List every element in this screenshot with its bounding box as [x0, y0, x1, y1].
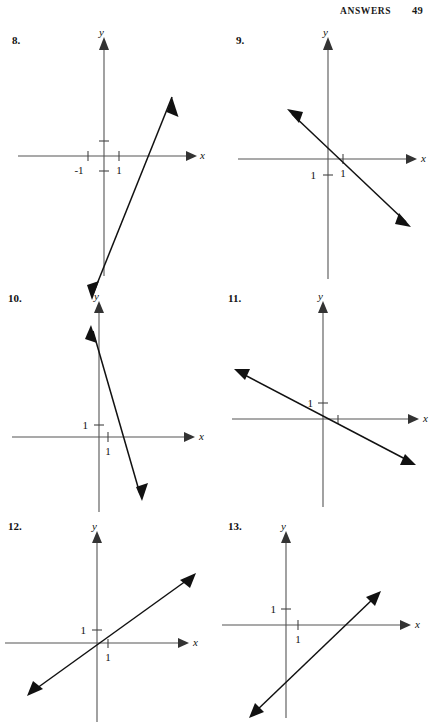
figure-13: 13. x y 1 1: [220, 514, 440, 724]
figure-13-y-label: y: [280, 520, 286, 532]
answers-page: ANSWERS 49 8. x y -1 1: [0, 0, 440, 724]
figure-13-x-axis-arrow: [400, 620, 411, 630]
figure-13-tick-label-y1: 1: [271, 603, 277, 615]
figure-13-x-label: x: [414, 618, 420, 630]
figure-13-graph: x y 1 1: [0, 0, 440, 724]
figure-13-y-axis-arrow: [281, 531, 291, 543]
figure-13-tick-label-x1: 1: [295, 633, 301, 645]
